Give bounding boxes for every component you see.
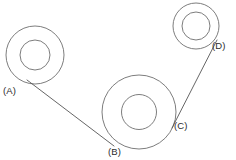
pulley-b-inner-circle <box>122 95 157 130</box>
pulley-diagram-canvas: (A) (B) (C) (D) <box>0 0 236 160</box>
label-point-a: (A) <box>3 86 16 96</box>
pulley-b-group <box>102 75 176 149</box>
label-point-c: (C) <box>174 121 188 131</box>
pulley-d-inner-circle <box>182 12 210 40</box>
belt-segment-c-to-d <box>172 40 217 128</box>
pulley-a-group <box>6 26 64 84</box>
belt-segment-a-to-b <box>27 80 114 146</box>
label-point-d: (D) <box>212 41 226 51</box>
pulley-a-inner-circle <box>20 40 50 70</box>
pulley-b-outer-circle <box>102 75 176 149</box>
pulley-a-outer-circle <box>6 26 64 84</box>
label-point-b: (B) <box>108 147 121 157</box>
pulley-diagram-svg <box>0 0 236 160</box>
